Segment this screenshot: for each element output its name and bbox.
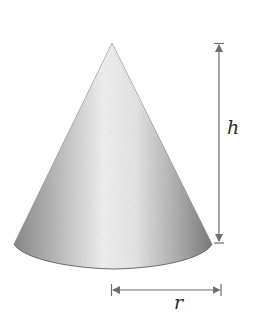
- cone-diagram: h r: [0, 0, 259, 314]
- radius-label: r: [174, 291, 185, 313]
- radius-dimension: r: [112, 284, 222, 313]
- cone: [14, 43, 212, 269]
- height-label: h: [227, 116, 239, 138]
- height-dimension: h: [214, 44, 239, 244]
- cone-surface: [14, 43, 212, 269]
